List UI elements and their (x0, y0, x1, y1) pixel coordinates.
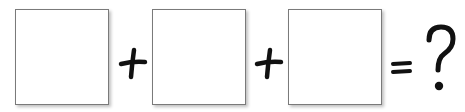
answer-box-2[interactable] (152, 9, 246, 105)
plus-icon (254, 46, 284, 80)
plus-sign-1 (118, 46, 148, 80)
question-mark-icon (424, 24, 458, 96)
answer-box-1[interactable] (15, 9, 109, 105)
plus-sign-2 (254, 46, 284, 80)
plus-icon (118, 46, 148, 80)
equals-icon (390, 58, 414, 78)
question-mark (424, 24, 458, 96)
equals-sign (390, 58, 414, 78)
answer-box-3[interactable] (288, 9, 382, 105)
